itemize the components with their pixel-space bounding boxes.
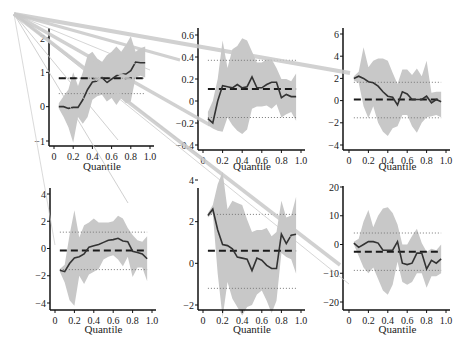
y-tick-label: −0.2	[176, 118, 194, 129]
x-tick-label: 0	[201, 315, 206, 326]
x-tick-label: 0.2	[67, 151, 80, 162]
y-tick-label: 0.4	[182, 52, 195, 63]
x-tick-label: 0.2	[216, 315, 229, 326]
y-tick-label: 20	[329, 182, 339, 193]
y-tick-label: 0	[334, 239, 339, 250]
y-tick-label: −4	[328, 140, 339, 151]
x-axis-title: Quantile	[233, 160, 271, 172]
confidence-band	[208, 172, 296, 318]
x-axis-title: Quantile	[379, 323, 417, 335]
x-tick-label: 0.8	[275, 155, 288, 166]
y-tick-label: 0	[334, 95, 339, 106]
quantile-regression-figure: −101200.20.40.60.81.0Quantile−0.4−0.200.…	[0, 0, 467, 347]
x-tick-label: 0.2	[362, 155, 375, 166]
x-axis-title: Quantile	[379, 160, 417, 172]
x-tick-label: 0	[53, 315, 58, 326]
y-tick-label: 2	[41, 216, 46, 227]
y-tick-label: 0.6	[182, 30, 195, 41]
panel-bottom-left: −4−202400.20.40.60.81.0Quantile	[35, 188, 158, 335]
x-tick-label: 0.8	[420, 155, 433, 166]
y-tick-label: 1	[40, 67, 45, 78]
y-tick-label: 0.2	[182, 74, 195, 85]
x-axis-title: Quantile	[233, 323, 271, 335]
x-tick-label: 0.8	[126, 315, 139, 326]
x-tick-label: 1.0	[146, 315, 159, 326]
y-tick-label: 4	[189, 175, 194, 186]
x-tick-label: 0.2	[68, 315, 81, 326]
panel-top-middle: −0.4−0.200.20.40.600.20.40.60.81.0Quanti…	[176, 28, 307, 172]
y-tick-label: 2	[189, 216, 194, 227]
y-tick-label: 0	[40, 101, 45, 112]
x-tick-label: 0.8	[275, 315, 288, 326]
confidence-band	[208, 38, 296, 134]
pointer-line	[14, 14, 340, 265]
y-tick-label: 0	[189, 258, 194, 269]
y-tick-label: 0	[189, 96, 194, 107]
x-tick-label: 1.0	[440, 315, 453, 326]
confidence-band	[60, 210, 147, 305]
y-tick-label: −4	[35, 298, 46, 309]
y-tick-label: 2	[334, 73, 339, 84]
x-tick-label: 0	[52, 151, 57, 162]
panel-bottom-right: −20−100102000.20.40.60.81.0Quantile	[323, 182, 452, 336]
x-tick-label: 0.8	[420, 315, 433, 326]
x-axis-title: Quantile	[83, 160, 121, 172]
x-tick-label: 1.0	[144, 151, 157, 162]
y-tick-label: 4	[334, 51, 339, 62]
x-tick-label: 1.0	[295, 155, 308, 166]
confidence-band	[59, 36, 145, 142]
y-tick-label: −2	[35, 270, 46, 281]
x-tick-label: 0.2	[216, 155, 229, 166]
x-tick-label: 0	[347, 155, 352, 166]
x-tick-label: 0.8	[125, 151, 138, 162]
y-tick-label: −2	[328, 117, 339, 128]
y-tick-label: 6	[334, 29, 339, 40]
y-tick-label: 0	[41, 243, 46, 254]
x-tick-label: 1.0	[295, 315, 308, 326]
y-tick-label: −2	[183, 300, 194, 311]
x-axis-title: Quantile	[85, 323, 123, 335]
y-tick-label: −20	[323, 297, 339, 308]
x-tick-label: 1.0	[440, 155, 453, 166]
x-tick-label: 0.2	[362, 315, 375, 326]
panel-bottom-middle: −202400.20.40.60.81.0Quantile	[183, 172, 307, 335]
panel-top-right: −4−2024600.20.40.60.81.0Quantile	[328, 28, 452, 172]
y-tick-label: 10	[329, 210, 339, 221]
confidence-band	[354, 47, 441, 136]
x-tick-label: 0	[347, 315, 352, 326]
